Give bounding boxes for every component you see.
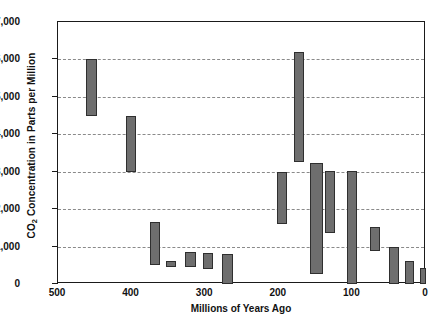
y-axis-title: CO2 Concentration in Parts per Million [26,31,37,261]
co2-concentration-chart: CO2 Concentration in Parts per Million M… [0,0,445,325]
bar-range-1 [126,116,136,172]
gridline-3000 [58,172,424,173]
y-tick-label-6000: 6,000 [0,53,20,64]
bar-range-10 [325,171,335,234]
gridline-4000 [58,134,424,135]
bar-range-9 [310,163,323,273]
y-tick-label-0: 0 [0,278,20,289]
x-axis-title: Millions of Years Ago [57,303,425,314]
bar-range-5 [203,253,213,269]
x-tick-label-300: 300 [181,287,227,298]
plot-area [57,21,425,283]
bar-range-0 [86,59,97,115]
y-tick-label-5000: 5,000 [0,90,20,101]
bar-range-2 [150,222,160,265]
y-tick-label-4000: 4,000 [0,128,20,139]
y-tick-label-3000: 3,000 [0,165,20,176]
x-tick-label-0: 0 [402,287,445,298]
x-tick-label-200: 200 [255,287,301,298]
gridline-5000 [58,97,424,98]
bar-range-8 [294,52,304,162]
y-tick-label-1000: 1,000 [0,240,20,251]
y-axis-title-prefix: CO [26,223,37,238]
gridline-6000 [58,59,424,60]
bar-range-4 [185,252,195,267]
x-tick-label-500: 500 [34,287,80,298]
bar-range-7 [277,172,287,224]
y-tick-mark-0 [52,283,58,284]
bar-range-14 [405,261,414,284]
x-tick-label-400: 400 [108,287,154,298]
bar-range-12 [370,227,380,251]
bar-range-11 [347,171,357,284]
bar-range-13 [389,247,399,284]
y-tick-label-7000: 7,000 [0,16,20,27]
x-tick-label-100: 100 [328,287,374,298]
bar-range-15 [420,268,426,284]
gridline-2000 [58,209,424,210]
y-tick-label-2000: 2,000 [0,203,20,214]
y-axis-title-suffix: Concentration in Parts per Million [26,53,37,219]
bar-range-3 [166,261,176,267]
bar-range-6 [222,254,233,284]
y-axis-title-subscript: 2 [30,219,39,223]
